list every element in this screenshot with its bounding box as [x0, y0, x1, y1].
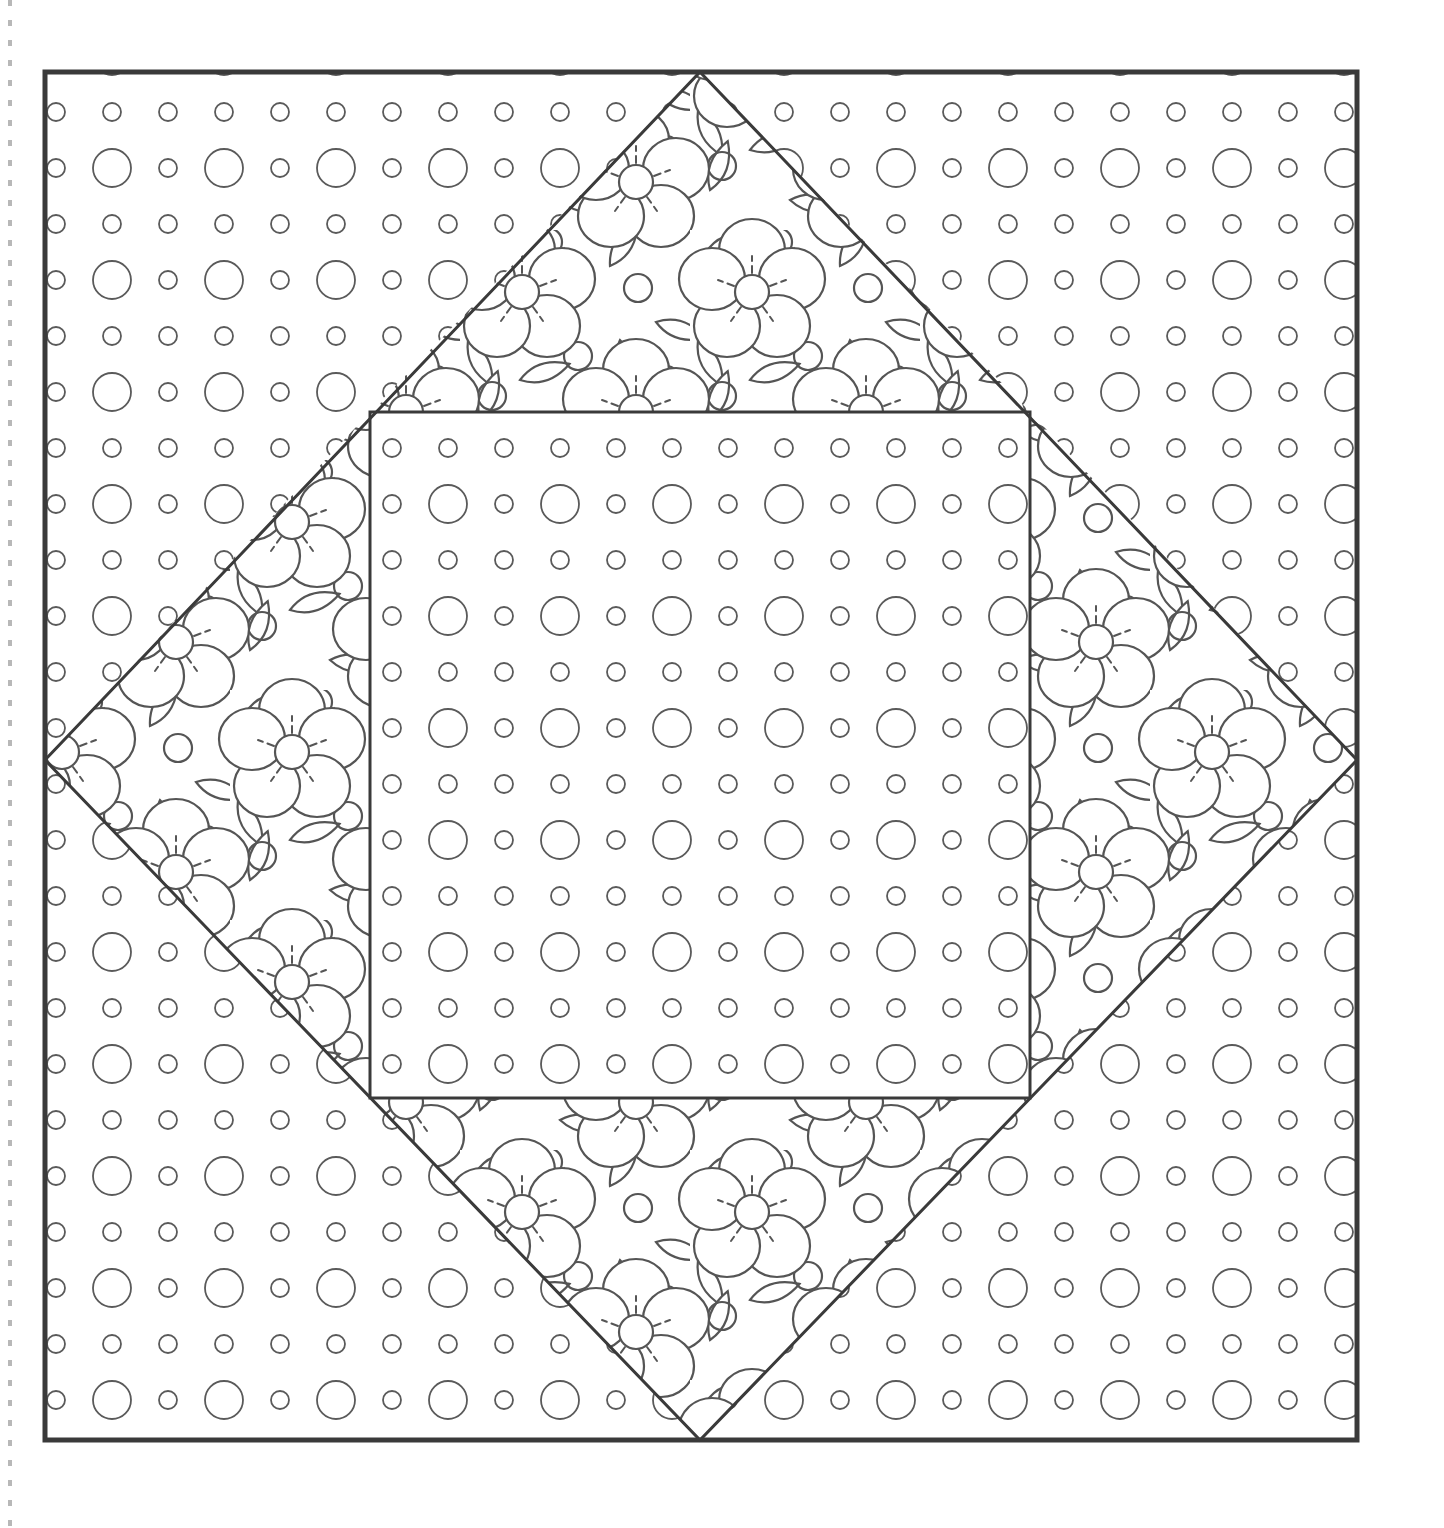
- quilt-block-svg: [0, 0, 1444, 1528]
- quilt-block-canvas: [0, 0, 1444, 1528]
